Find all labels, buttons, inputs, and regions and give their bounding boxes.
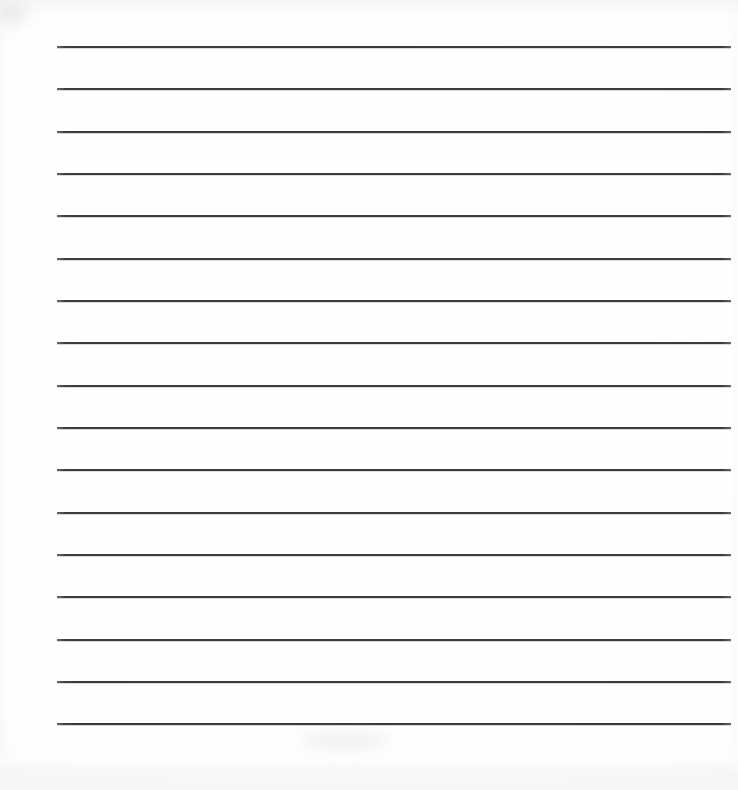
ruled-line xyxy=(57,681,731,683)
ruled-line xyxy=(57,342,731,344)
ruled-line xyxy=(57,385,731,387)
ruled-line xyxy=(57,554,731,556)
ruled-line xyxy=(57,639,731,641)
writing-line-slot[interactable] xyxy=(57,603,731,639)
ruled-line xyxy=(57,173,731,175)
writing-line-slot[interactable] xyxy=(57,137,731,173)
writing-line-slot[interactable] xyxy=(57,222,731,258)
writing-line-slot[interactable] xyxy=(57,687,731,723)
writing-line-slot[interactable] xyxy=(57,264,731,300)
lined-paper-page xyxy=(0,0,738,790)
writing-line-slot[interactable] xyxy=(57,560,731,596)
ruled-line xyxy=(57,258,731,260)
writing-line-slot[interactable] xyxy=(57,52,731,88)
ruled-line xyxy=(57,427,731,429)
writing-line-slot[interactable] xyxy=(57,179,731,215)
ruled-line xyxy=(57,46,731,48)
ruled-line xyxy=(57,215,731,217)
writing-line-slot[interactable] xyxy=(57,349,731,385)
ruled-line xyxy=(57,723,731,725)
writing-line-slot[interactable] xyxy=(57,518,731,554)
writing-line-slot[interactable] xyxy=(57,476,731,512)
ruled-lines-layer xyxy=(0,0,738,790)
writing-line-slot[interactable] xyxy=(57,433,731,469)
ruled-line xyxy=(57,469,731,471)
writing-line-slot[interactable] xyxy=(57,306,731,342)
ruled-line xyxy=(57,88,731,90)
writing-line-slot[interactable] xyxy=(57,10,731,46)
writing-line-slot[interactable] xyxy=(57,391,731,427)
writing-line-slot[interactable] xyxy=(57,95,731,131)
ruled-line xyxy=(57,596,731,598)
writing-line-slot[interactable] xyxy=(57,645,731,681)
ruled-line xyxy=(57,300,731,302)
ruled-line xyxy=(57,131,731,133)
ruled-line xyxy=(57,512,731,514)
